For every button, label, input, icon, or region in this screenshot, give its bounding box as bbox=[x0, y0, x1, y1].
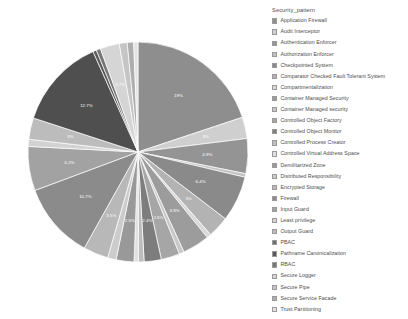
legend-item[interactable]: Container Managed security bbox=[270, 104, 408, 115]
legend: Security_pattern Application FirewallAud… bbox=[270, 7, 408, 317]
legend-title: Security_pattern bbox=[272, 7, 408, 13]
legend-swatch-icon bbox=[272, 85, 277, 90]
legend-item-label: Input Guard bbox=[280, 207, 309, 212]
pie-slice-label: 2.6% bbox=[153, 215, 163, 220]
legend-item-label: Least privilege bbox=[280, 218, 315, 223]
legend-item-label: Application Firewall bbox=[280, 18, 327, 23]
legend-item-label: Controlled Object Monitor bbox=[280, 129, 341, 134]
legend-item[interactable]: Encrypted Storage bbox=[270, 182, 408, 193]
legend-item[interactable]: Output Guard bbox=[270, 226, 408, 237]
legend-swatch-icon bbox=[272, 185, 277, 190]
legend-item-label: Checkpointed System bbox=[280, 63, 332, 68]
legend-item[interactable]: Secure Service Facade bbox=[270, 293, 408, 304]
pie-slice-label: 3% bbox=[185, 196, 191, 201]
legend-item-label: Output Guard bbox=[280, 229, 313, 234]
legend-item-label: Secure Logger bbox=[280, 273, 315, 278]
pie-slice-label: 6.4% bbox=[196, 179, 206, 184]
legend-item-label: Compartmentalization bbox=[280, 85, 333, 90]
legend-item[interactable]: Checkpointed System bbox=[270, 60, 408, 71]
legend-item-label: Controlled Object Factory bbox=[280, 118, 341, 123]
legend-item[interactable]: Pathname Canonicalization bbox=[270, 248, 408, 259]
legend-item-label: Container Managed security bbox=[280, 107, 348, 112]
legend-swatch-icon bbox=[272, 240, 277, 245]
legend-item-label: Comparator Checked Fault Tolerant System bbox=[280, 74, 385, 79]
legend-item-label: Trust Partitioning bbox=[280, 307, 321, 312]
legend-item[interactable]: RBAC bbox=[270, 259, 408, 270]
legend-item[interactable]: Distributed Responsibility bbox=[270, 171, 408, 182]
pie-slice-label: 4.9% bbox=[202, 152, 212, 157]
legend-item-label: Audit Interceptor bbox=[280, 29, 320, 34]
legend-item[interactable]: Compartmentalization bbox=[270, 82, 408, 93]
pie-chart-svg[interactable]: 19%3%4.9%6.4%3%3.8%2.6%2.4%2.5%3.5%10.7%… bbox=[0, 0, 268, 319]
legend-item-label: Firewall bbox=[280, 196, 299, 201]
legend-item[interactable]: Application Firewall bbox=[270, 15, 408, 26]
legend-swatch-icon bbox=[272, 74, 277, 79]
legend-swatch-icon bbox=[272, 296, 277, 301]
legend-item[interactable]: Controlled Object Monitor bbox=[270, 126, 408, 137]
legend-item[interactable]: Least privilege bbox=[270, 215, 408, 226]
legend-swatch-icon bbox=[272, 229, 277, 234]
legend-swatch-icon bbox=[272, 129, 277, 134]
legend-item-label: Controlled Virtual Address Space bbox=[280, 151, 359, 156]
pie-chart-screen: 19%3%4.9%6.4%3%3.8%2.6%2.4%2.5%3.5%10.7%… bbox=[0, 0, 408, 319]
pie-slice-group[interactable] bbox=[28, 42, 248, 262]
pie-slice-label: 3.8% bbox=[170, 208, 180, 213]
pie-slice-label: 3.5% bbox=[106, 213, 116, 218]
legend-item-label: Distributed Responsibility bbox=[280, 174, 341, 179]
legend-list: Application FirewallAudit InterceptorAut… bbox=[270, 15, 408, 315]
legend-swatch-icon bbox=[272, 251, 277, 256]
legend-item[interactable]: Demilitarized Zone bbox=[270, 160, 408, 171]
legend-swatch-icon bbox=[272, 218, 277, 223]
legend-item[interactable]: Controlled Process Creator bbox=[270, 137, 408, 148]
legend-swatch-icon bbox=[272, 63, 277, 68]
legend-swatch-icon bbox=[272, 140, 277, 145]
legend-item[interactable]: Controlled Virtual Address Space bbox=[270, 149, 408, 160]
pie-slice-label: 6.2% bbox=[64, 160, 74, 165]
legend-swatch-icon bbox=[272, 96, 277, 101]
legend-swatch-icon bbox=[272, 18, 277, 23]
legend-item[interactable]: Secure Logger bbox=[270, 271, 408, 282]
pie-slice-label: 2.7% bbox=[115, 82, 125, 87]
legend-item-label: Authorization Enforcer bbox=[280, 52, 334, 57]
legend-item[interactable]: Input Guard bbox=[270, 204, 408, 215]
legend-item[interactable]: Audit Interceptor bbox=[270, 26, 408, 37]
legend-swatch-icon bbox=[272, 174, 277, 179]
legend-item-label: PBAC bbox=[280, 240, 295, 245]
pie-slice-label: 10.7% bbox=[79, 194, 92, 199]
legend-swatch-icon bbox=[272, 274, 277, 279]
pie-slice-label: 3% bbox=[202, 134, 208, 139]
legend-swatch-icon bbox=[272, 52, 277, 57]
legend-item-label: Secure Service Facade bbox=[280, 296, 336, 301]
legend-swatch-icon bbox=[272, 196, 277, 201]
legend-item[interactable]: Controlled Object Factory bbox=[270, 115, 408, 126]
legend-item[interactable]: Trust Partitioning bbox=[270, 304, 408, 315]
pie-slice-label: 19% bbox=[174, 93, 183, 98]
legend-swatch-icon bbox=[272, 285, 277, 290]
legend-item[interactable]: Container Managed Security bbox=[270, 93, 408, 104]
legend-swatch-icon bbox=[272, 118, 277, 123]
legend-item[interactable]: Authentication Enforcer bbox=[270, 38, 408, 49]
legend-swatch-icon bbox=[272, 41, 277, 46]
legend-swatch-icon bbox=[272, 207, 277, 212]
legend-item[interactable]: Secure Pipe bbox=[270, 282, 408, 293]
legend-swatch-icon bbox=[272, 163, 277, 168]
legend-swatch-icon bbox=[272, 262, 277, 267]
legend-swatch-icon bbox=[272, 29, 277, 34]
legend-item-label: Controlled Process Creator bbox=[280, 140, 345, 145]
legend-item[interactable]: Authorization Enforcer bbox=[270, 49, 408, 60]
legend-item[interactable]: Comparator Checked Fault Tolerant System bbox=[270, 71, 408, 82]
legend-swatch-icon bbox=[272, 307, 277, 312]
legend-item-label: Pathname Canonicalization bbox=[280, 251, 346, 256]
legend-item-label: Secure Pipe bbox=[280, 285, 309, 290]
legend-swatch-icon bbox=[272, 151, 277, 156]
pie-slice-label: 12.7% bbox=[80, 103, 93, 108]
legend-item-label: Authentication Enforcer bbox=[280, 40, 336, 45]
pie-chart-area: 19%3%4.9%6.4%3%3.8%2.6%2.4%2.5%3.5%10.7%… bbox=[0, 0, 268, 319]
legend-item[interactable]: PBAC bbox=[270, 237, 408, 248]
legend-item-label: RBAC bbox=[280, 262, 295, 267]
legend-item[interactable]: Firewall bbox=[270, 193, 408, 204]
pie-slice-label: 2.4% bbox=[142, 218, 152, 223]
legend-item-label: Encrypted Storage bbox=[280, 185, 325, 190]
pie-slice-label: 3% bbox=[67, 134, 73, 139]
pie-slice-label: 2.5% bbox=[125, 218, 135, 223]
